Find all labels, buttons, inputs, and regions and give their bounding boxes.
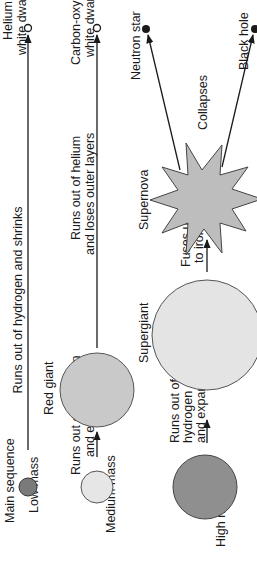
collapses-label: Collapses <box>196 75 210 130</box>
high-transition-1-label-1: Runs out of <box>168 379 182 443</box>
neutron-star <box>142 25 150 33</box>
high-transition-1-label-2: hydrogen <box>181 391 195 443</box>
helium-white-dwarf-label-1: Helium <box>1 1 15 40</box>
high-mass-star <box>173 455 237 519</box>
supernova-label: Supernova <box>137 169 151 230</box>
red-giant-label: Red giant <box>42 361 56 415</box>
supergiant-label: Supergiant <box>137 302 151 363</box>
black-hole-label: Black hole <box>237 12 251 70</box>
medium-transition-2-label-1: Runs out of helium <box>69 136 83 240</box>
neutron-star-label: Neutron star <box>129 11 143 80</box>
stellar-evolution-diagram: Main sequence Low mass Runs out of hydro… <box>0 0 257 585</box>
low-mass-star <box>19 478 37 496</box>
medium-mass-star <box>81 471 113 503</box>
medium-transition-2-label-2: and loses outer layers <box>83 133 97 255</box>
helium-white-dwarf <box>25 25 32 32</box>
black-hole <box>251 25 257 33</box>
low-mass-transition-label: Runs out of hydrogen and shrinks <box>11 207 25 394</box>
red-giant <box>60 353 134 427</box>
co-white-dwarf-label-1: Carbon-oxygen <box>69 0 83 65</box>
row-medium-mass: Medium mass Runs out of hydrogen and exp… <box>42 0 134 533</box>
supergiant <box>152 280 257 390</box>
neutron-star-arrow <box>148 35 180 170</box>
main-sequence-label: Main sequence <box>3 438 17 523</box>
co-white-dwarf <box>94 25 101 32</box>
row-low-mass: Main sequence Low mass Runs out of hydro… <box>1 0 41 523</box>
row-high-mass: High mass Runs out of hydrogen and expan… <box>129 11 257 547</box>
